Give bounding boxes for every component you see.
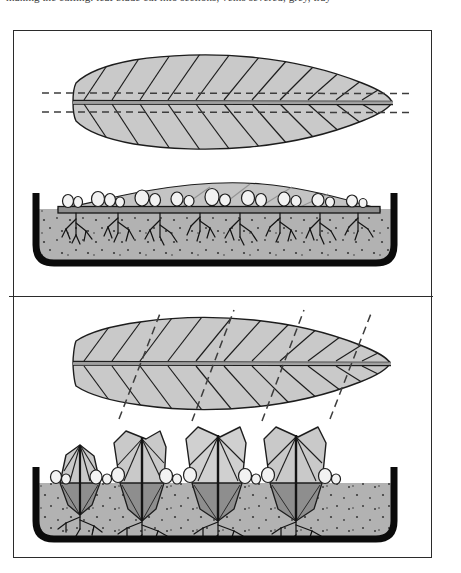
leaf-strip-flat: [58, 207, 380, 214]
tray-flat-svg: [14, 171, 433, 296]
plantlet: [262, 468, 275, 483]
plantlet: [319, 469, 341, 485]
leaf-midrib: [73, 101, 393, 105]
plantlet-row: [63, 189, 368, 208]
plantlet: [63, 195, 83, 208]
leaf-parallel-cuts-svg: [14, 31, 433, 171]
tray-upright-svg: [14, 425, 433, 559]
step-tray-leaf-laid-flat: [14, 171, 433, 296]
leaf-midrib: [73, 362, 391, 366]
figure-frame: [13, 30, 432, 558]
clipped-caption-strip: making the cutting: leaf blade cut into …: [0, 0, 461, 12]
plantlet: [92, 192, 125, 208]
plantlet: [160, 469, 182, 485]
step-leaf-with-parallel-cuts: [14, 31, 433, 171]
plantlet: [184, 468, 197, 483]
panel-midrib-parallel-cut-method: [14, 31, 433, 296]
leaf-diagonal-cuts-svg: [14, 297, 433, 425]
plantlet: [90, 470, 112, 484]
step-tray-chevron-upright: [14, 425, 433, 559]
plantlet: [239, 469, 261, 485]
plantlet: [112, 468, 125, 483]
caption-text: making the cutting: leaf blade cut into …: [6, 0, 331, 3]
panel-chevron-cut-method: [14, 297, 433, 559]
step-leaf-with-diagonal-cuts: [14, 297, 433, 425]
